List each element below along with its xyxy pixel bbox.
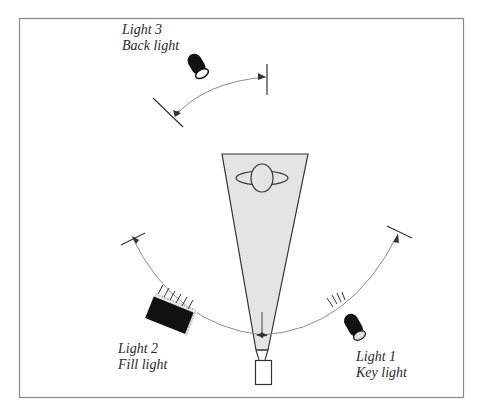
light-3-role: Back light (122, 38, 179, 54)
back-light-arc (153, 64, 267, 127)
lighting-diagram: Light 3 Back light Light 2 Fill light Li… (0, 0, 480, 410)
light-3-back-light-icon (185, 51, 210, 81)
light-2-role: Fill light (118, 357, 167, 373)
light-1-name: Light 1 (356, 349, 407, 365)
light-2-label: Light 2 Fill light (118, 341, 167, 373)
light-1-role: Key light (356, 365, 407, 381)
light-1-key-light-icon (327, 292, 368, 342)
light-3-label: Light 3 Back light (122, 22, 179, 54)
light-2-name: Light 2 (118, 341, 167, 357)
light-1-label: Light 1 Key light (356, 349, 407, 381)
light-3-name: Light 3 (122, 22, 179, 38)
camera-icon (256, 350, 272, 385)
